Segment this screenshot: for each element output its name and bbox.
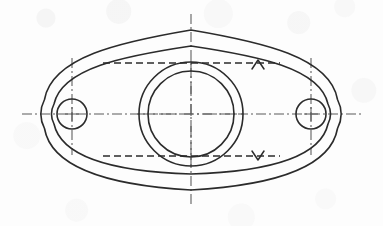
section-arrow-up-icon <box>252 60 264 69</box>
drawing-canvas: Flange Gasket Part Drawing <box>0 0 383 226</box>
technical-drawing <box>0 0 383 226</box>
centerlines-group <box>22 14 363 206</box>
